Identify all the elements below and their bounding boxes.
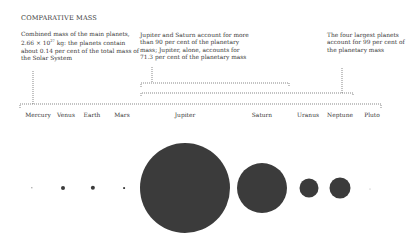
label-venus: Venus: [57, 112, 75, 118]
bracket-all-planets: [20, 104, 381, 108]
label-saturn: Saturn: [252, 112, 272, 118]
label-jupiter: Jupiter: [175, 112, 195, 118]
planet-jupiter: [140, 143, 230, 233]
planet-uranus: [300, 179, 319, 198]
label-pluto: Pluto: [364, 112, 380, 118]
label-mars: Mars: [114, 112, 129, 118]
label-uranus: Uranus: [297, 112, 319, 118]
label-mercury: Mercury: [25, 112, 51, 118]
bracket-jupiter-saturn: [141, 83, 289, 87]
planet-mars: [123, 187, 125, 189]
planet-saturn: [237, 163, 287, 213]
label-neptune: Neptune: [327, 112, 353, 118]
bracket-four-largest: [141, 93, 353, 96]
planet-venus: [61, 186, 65, 190]
label-earth: Earth: [84, 112, 101, 118]
planet-neptune: [330, 178, 351, 199]
planet-pluto: [370, 189, 371, 190]
